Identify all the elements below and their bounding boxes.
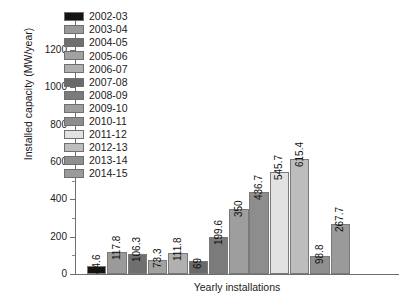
legend-swatch-icon: [64, 64, 84, 73]
legend-item-label: 2005-06: [89, 51, 128, 62]
legend-item[interactable]: 2009-10: [64, 102, 184, 115]
legend-item-label: 2006-07: [89, 64, 128, 75]
bar: [249, 192, 268, 274]
bar-value-label: 111.8: [172, 238, 183, 262]
bar-value-label: 615.4: [294, 142, 305, 167]
legend-swatch-icon: [64, 143, 84, 152]
bar-chart: Installed capacity (MW/year) Yearly inst…: [0, 0, 399, 301]
bar-value-label: 69: [192, 258, 203, 269]
y-tick-label: 1200: [27, 45, 67, 55]
legend-item-label: 2003-04: [89, 24, 128, 35]
bar-value-label: 436.7: [253, 175, 264, 200]
bar: [270, 172, 289, 274]
legend-item[interactable]: 2008-09: [64, 89, 184, 102]
legend-item-label: 2008-09: [89, 90, 128, 101]
legend-item-label: 2004-05: [89, 37, 128, 48]
bar-value-label: 199.6: [213, 220, 224, 245]
y-tick-label: 1000: [27, 82, 67, 92]
legend-item-label: 2012-13: [89, 142, 128, 153]
bar-value-label: 350: [233, 200, 244, 217]
bar: [290, 159, 309, 274]
legend-item-label: 2009-10: [89, 103, 128, 114]
y-tick-label: 800: [27, 120, 67, 130]
legend-item[interactable]: 2014-15: [64, 167, 184, 180]
y-tick-label: 400: [27, 194, 67, 204]
legend-swatch-icon: [64, 12, 84, 21]
legend-swatch-icon: [64, 51, 84, 60]
bar-value-label: 545.7: [273, 155, 284, 180]
legend-item[interactable]: 2013-14: [64, 154, 184, 167]
legend-swatch-icon: [64, 104, 84, 113]
legend-item-label: 2014-15: [89, 168, 128, 179]
bar-value-label: 267.7: [334, 207, 345, 232]
legend-item[interactable]: 2003-04: [64, 23, 184, 36]
legend-swatch-icon: [64, 130, 84, 139]
legend-item-label: 2013-14: [89, 155, 128, 166]
legend-swatch-icon: [64, 25, 84, 34]
legend-item[interactable]: 2011-12: [64, 128, 184, 141]
legend-item[interactable]: 2010-11: [64, 115, 184, 128]
legend-item[interactable]: 2012-13: [64, 141, 184, 154]
legend-item-label: 2010-11: [89, 116, 127, 127]
legend-item[interactable]: 2006-07: [64, 62, 184, 75]
legend-item[interactable]: 2002-03: [64, 10, 184, 23]
x-axis-label: Yearly installations: [75, 281, 399, 293]
legend-item-label: 2007-08: [89, 77, 128, 88]
legend-swatch-icon: [64, 169, 84, 178]
legend-swatch-icon: [64, 38, 84, 47]
bar-value-label: 117.8: [111, 236, 122, 260]
legend-item[interactable]: 2005-06: [64, 49, 184, 62]
bar-value-label: 98.8: [314, 244, 325, 263]
y-tick-label: 600: [27, 157, 67, 167]
chart-legend: 2002-032003-042004-052005-062006-072007-…: [64, 10, 184, 180]
legend-item-label: 2011-12: [89, 129, 127, 140]
legend-swatch-icon: [64, 156, 84, 165]
y-tick-label: 0: [27, 269, 67, 279]
bar-value-label: 106.3: [131, 237, 142, 262]
legend-swatch-icon: [64, 91, 84, 100]
legend-item[interactable]: 2004-05: [64, 36, 184, 49]
legend-swatch-icon: [64, 78, 84, 87]
legend-item[interactable]: 2007-08: [64, 75, 184, 88]
bar-value-label: 73.3: [152, 249, 163, 268]
bar: [229, 209, 248, 274]
legend-swatch-icon: [64, 117, 84, 126]
bar-value-label: 44.6: [91, 254, 102, 273]
y-tick-label: 200: [27, 232, 67, 242]
legend-item-label: 2002-03: [89, 11, 128, 22]
